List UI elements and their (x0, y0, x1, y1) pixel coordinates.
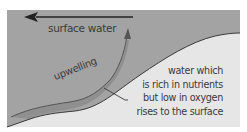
surface-water-label: surface water (48, 22, 116, 34)
callout-line-3: but low in oxygen (137, 91, 224, 105)
callout-line-2: is rich in nutrients (137, 78, 224, 92)
callout-line-1: water which (137, 64, 224, 78)
callout-line-4: rises to the surface (137, 105, 224, 119)
upwelling-callout: water which is rich in nutrients but low… (137, 64, 224, 118)
